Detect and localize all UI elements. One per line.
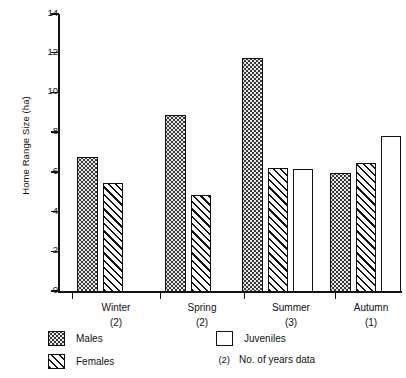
legend-label-juveniles: Juveniles (244, 333, 286, 344)
y-tick-label-12: 12 (12, 46, 58, 57)
x-group-label-summer: Summer (3) (249, 300, 333, 330)
y-tick-label-10: 10 (12, 85, 58, 96)
x-group-name-summer: Summer (249, 300, 333, 315)
bar-autumn-females (356, 163, 376, 292)
x-group-name-autumn: Autumn (338, 300, 404, 315)
bar-summer-females (268, 168, 288, 292)
x-tick-spring (160, 291, 161, 299)
bar-winter-males (77, 157, 98, 292)
x-group-label-autumn: Autumn (1) (338, 300, 404, 330)
legend-marker-years: (2) (204, 354, 230, 365)
chart-legend: Males Females Juveniles (2) No. of years… (0, 328, 406, 378)
legend-item-males: Males (48, 331, 103, 346)
legend-label-females: Females (76, 356, 114, 367)
y-tick-label-8: 8 (12, 125, 58, 136)
bar-winter-females (103, 183, 123, 292)
y-tick-label-4: 4 (12, 205, 58, 216)
plot-area (58, 14, 402, 292)
x-tick-autumn (335, 291, 336, 299)
y-tick-label-0: 0 (12, 284, 58, 295)
legend-item-years-note: (2) No. of years data (204, 354, 315, 365)
y-tick-label-6: 6 (12, 165, 58, 176)
bar-summer-juveniles (293, 169, 313, 292)
legend-swatch-juveniles-icon (216, 331, 233, 346)
home-range-size-bar-chart: Home Range Size (ha) 0 2 4 6 8 10 12 14 … (0, 0, 406, 378)
legend-item-juveniles: Juveniles (216, 331, 286, 346)
legend-item-females: Females (48, 354, 114, 369)
bar-autumn-juveniles (381, 136, 401, 292)
y-tick-label-2: 2 (12, 244, 58, 255)
y-tick-label-14: 14 (12, 7, 58, 18)
bar-spring-females (191, 195, 211, 292)
bar-summer-males (242, 58, 263, 292)
legend-label-males: Males (76, 333, 103, 344)
x-group-label-winter: Winter (2) (76, 300, 156, 330)
bar-autumn-males (330, 173, 351, 292)
x-group-name-winter: Winter (76, 300, 156, 315)
x-tick-summer (244, 291, 245, 299)
x-group-label-spring: Spring (2) (163, 300, 241, 330)
bar-spring-males (165, 115, 186, 292)
legend-label-years: No. of years data (239, 354, 315, 365)
legend-swatch-males-icon (48, 331, 65, 346)
x-tick-winter (72, 291, 73, 299)
legend-swatch-females-icon (48, 354, 65, 369)
x-group-name-spring: Spring (163, 300, 241, 315)
